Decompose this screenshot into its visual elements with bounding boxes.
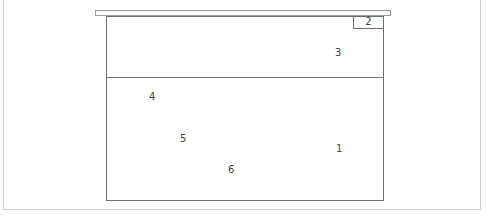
label-5: 5 <box>180 133 186 145</box>
main-box <box>106 16 384 201</box>
label-1: 1 <box>336 143 342 155</box>
horizontal-divider <box>106 77 384 78</box>
label-3: 3 <box>335 47 341 59</box>
corner-tag-2: 2 <box>353 16 384 29</box>
label-6: 6 <box>228 164 234 176</box>
label-4: 4 <box>149 91 155 103</box>
